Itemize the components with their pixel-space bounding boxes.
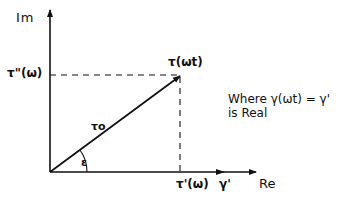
tau-prime-label: τ'(ω)	[176, 178, 209, 190]
note-line-1: Where γ(ωt) = γ'	[228, 93, 330, 105]
angle-label: ε	[81, 157, 87, 168]
tau-double-prime-label: τ"(ω)	[7, 67, 42, 79]
tau-vector-label: τ(ωt)	[168, 56, 203, 68]
tau-magnitude-label: τo	[91, 121, 106, 132]
gamma-prime-arrowhead	[216, 169, 225, 175]
note-line-2: is Real	[228, 107, 267, 119]
imaginary-axis-label: Im	[16, 11, 35, 24]
real-axis-label: Re	[259, 177, 275, 190]
gamma-prime-label: γ'	[219, 178, 231, 190]
tau-vector	[50, 76, 180, 172]
